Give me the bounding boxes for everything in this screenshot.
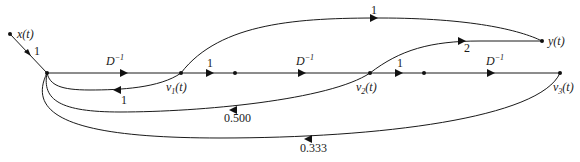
v1-label: v1(t) xyxy=(166,80,187,96)
v1-feedback-branch xyxy=(47,73,181,90)
v3-feedback-branch xyxy=(42,73,560,138)
delay-1-label: D−1 xyxy=(105,53,124,68)
mid-node-1 xyxy=(233,71,237,75)
delay-2-label: D−1 xyxy=(295,53,314,68)
v2-to-output-gain-label: 2 xyxy=(464,41,470,55)
v1-node xyxy=(179,71,183,75)
v2-forward-gain-label: 1 xyxy=(397,56,403,70)
output-node xyxy=(540,39,544,43)
v2-label: v2(t) xyxy=(356,80,377,96)
arrow-icon xyxy=(206,69,214,77)
v1-to-output-gain-label: 1 xyxy=(371,3,377,17)
input-node xyxy=(8,32,12,36)
arrow-icon xyxy=(298,69,306,77)
arrow-icon xyxy=(120,69,128,77)
mid-node-2 xyxy=(422,71,426,75)
v1-feedback-gain-label: 1 xyxy=(121,93,127,107)
input-label: x(t) xyxy=(16,27,34,41)
v3-label: v3(t) xyxy=(553,80,574,96)
output-label: y(t) xyxy=(547,34,565,48)
v2-to-output-branch xyxy=(370,41,542,73)
v3-node xyxy=(558,71,562,75)
v3-feedback-gain-label: 0.333 xyxy=(300,141,327,155)
v2-feedback-branch xyxy=(46,73,370,112)
arrow-icon xyxy=(487,69,495,77)
input-gain-label: 1 xyxy=(34,44,40,58)
v2-feedback-gain-label: 0.500 xyxy=(224,111,251,125)
v2-node xyxy=(368,71,372,75)
arrow-icon xyxy=(113,86,121,94)
delay-3-label: D−1 xyxy=(485,53,504,68)
v1-forward-gain-label: 1 xyxy=(207,56,213,70)
arrow-icon xyxy=(395,69,403,77)
sum-node xyxy=(45,71,49,75)
signal-flow-graph: x(t) 1 y(t) D−1 1 D−1 1 D−1 1 2 1 0.500 … xyxy=(0,0,580,162)
